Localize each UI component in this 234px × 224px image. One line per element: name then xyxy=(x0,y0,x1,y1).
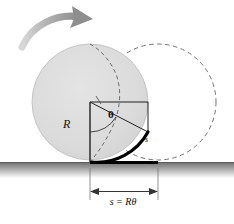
arrow-right-icon xyxy=(149,188,158,195)
diagram-canvas xyxy=(0,0,234,224)
ground-surface xyxy=(0,162,234,178)
radius-label: R xyxy=(63,117,70,132)
arrow-left-icon xyxy=(90,188,99,195)
rotation-arrow-icon xyxy=(22,16,80,47)
angle-label: θ xyxy=(108,108,114,120)
rolling-wheel-figure: R θ s s = Rθ xyxy=(0,0,234,224)
arc-length-label: s xyxy=(145,135,148,144)
dimension-label: s = Rθ xyxy=(88,196,158,207)
